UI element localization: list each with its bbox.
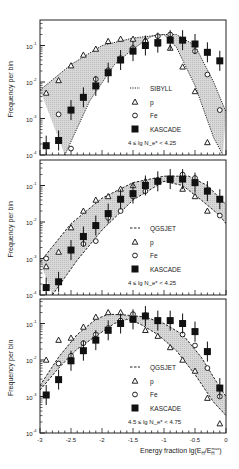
square-marker: [55, 137, 62, 144]
legend-label: KASCADE: [150, 405, 182, 412]
circle-marker: [217, 108, 222, 113]
triangle-marker: [205, 140, 211, 145]
y-tick-exponent: -4: [33, 150, 37, 155]
square-marker: [179, 176, 186, 183]
square-marker: [142, 42, 149, 49]
square-marker: [68, 357, 75, 364]
legend-label: p: [150, 378, 154, 386]
legend-model-label: QGSJET: [150, 364, 176, 372]
circle-marker: [118, 209, 123, 214]
square-marker: [80, 94, 87, 101]
legend-model-label: SIBYLL: [150, 85, 172, 92]
triangle-marker: [205, 208, 211, 213]
legend-label: Fe: [150, 391, 158, 398]
circle-marker: [93, 239, 98, 244]
square-marker: [92, 222, 99, 229]
square-marker: [179, 37, 186, 44]
square-marker: [204, 49, 211, 56]
square-marker: [204, 348, 211, 355]
square-marker: [92, 82, 99, 89]
legend: SIBYLLpFeKASCADE4 ≤ lg N_e* < 4.25: [128, 85, 182, 147]
x-tick-label: 0: [224, 437, 228, 443]
square-marker: [68, 107, 75, 114]
square-marker: [167, 317, 174, 324]
y-tick-exponent: -4: [33, 428, 37, 433]
square-marker: [154, 39, 161, 46]
triangle-marker: [105, 310, 111, 315]
square-marker: [130, 48, 137, 55]
y-axis-label: Frequency per bin: [7, 201, 15, 258]
circle-marker: [44, 256, 49, 261]
square-marker: [130, 316, 137, 323]
triangle-marker: [68, 335, 74, 340]
square-marker: [179, 320, 186, 327]
triangle-marker: [217, 421, 223, 426]
square-marker: [216, 57, 223, 64]
triangle-marker: [43, 357, 49, 362]
legend-circle-icon: [133, 253, 138, 258]
square-marker: [142, 313, 149, 320]
square-marker: [192, 40, 199, 47]
x-axis-label: Energy fraction lg(EH/EHmax): [140, 446, 222, 456]
y-tick-exponent: -3: [33, 114, 37, 119]
square-marker: [130, 190, 137, 197]
square-marker: [192, 328, 199, 335]
y-tick-exponent: -1: [33, 41, 37, 46]
square-marker: [154, 317, 161, 324]
condition-label: 4 ≤ lg N_e* < 4.25: [128, 280, 177, 286]
circle-marker: [193, 343, 198, 348]
triangle-marker: [81, 208, 87, 213]
legend-label: p: [150, 239, 154, 247]
x-tick-label: -2.5: [66, 437, 77, 443]
legend-label: KASCADE: [150, 126, 182, 133]
y-tick-exponent: -2: [33, 217, 37, 222]
circle-marker: [205, 72, 210, 77]
circle-marker: [205, 366, 210, 371]
y-tick-exponent: -3: [33, 254, 37, 259]
legend-triangle-icon: [132, 99, 138, 104]
triangle-marker: [93, 46, 99, 51]
triangle-marker: [81, 52, 87, 57]
square-marker: [117, 196, 124, 203]
triangle-marker: [93, 197, 99, 202]
x-tick-label: -1.5: [128, 437, 139, 443]
y-tick-exponent: -2: [33, 77, 37, 82]
y-tick-exponent: -4: [33, 290, 37, 295]
x-tick-label: -3: [37, 437, 43, 443]
y-tick-exponent: -1: [33, 319, 37, 324]
square-marker: [55, 278, 62, 285]
condition-label: 4 ≤ lg N_e* < 4.25: [128, 140, 177, 146]
square-marker: [117, 320, 124, 327]
legend-label: p: [150, 99, 154, 107]
legend-square-icon: [132, 126, 139, 133]
triangle-marker: [105, 38, 111, 43]
square-marker: [80, 347, 87, 354]
square-marker: [216, 196, 223, 203]
panel-2: 10-410-310-210-1Frequency per binQGSJETp…: [7, 160, 226, 299]
y-tick-exponent: -1: [33, 181, 37, 186]
y-tick-exponent: -3: [33, 392, 37, 397]
square-marker: [80, 233, 87, 240]
triangle-marker: [93, 314, 99, 319]
square-marker: [117, 57, 124, 64]
legend-label: KASCADE: [150, 266, 182, 273]
square-marker: [92, 337, 99, 344]
square-marker: [105, 210, 112, 217]
legend-triangle-icon: [132, 378, 138, 383]
x-tick-label: -2: [99, 437, 105, 443]
square-marker: [43, 284, 50, 291]
y-tick-exponent: -2: [33, 355, 37, 360]
circle-marker: [69, 146, 74, 151]
square-marker: [216, 385, 223, 392]
square-marker: [105, 327, 112, 334]
square-marker: [43, 391, 50, 398]
legend: QGSJETpFeKASCADE4 ≤ lg N_e* < 4.25: [128, 225, 182, 287]
x-tick-label: -1: [161, 437, 167, 443]
square-marker: [142, 182, 149, 189]
panel-3: 10-410-310-210-1Frequency per binQGSJETp…: [7, 299, 226, 437]
square-marker: [43, 142, 50, 149]
legend-square-icon: [132, 266, 139, 273]
triangle-marker: [130, 36, 136, 41]
legend: QGSJETpFeKASCADE4.5 ≤ lg N_e* < 4.75: [128, 364, 182, 426]
x-tick-label: -0.5: [190, 437, 201, 443]
